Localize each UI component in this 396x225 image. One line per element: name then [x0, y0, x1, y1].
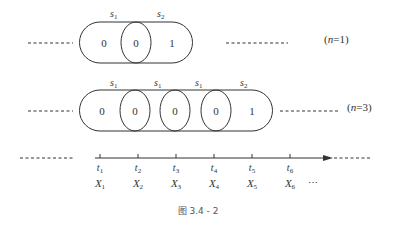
segment-label-s1: s1 [195, 77, 203, 90]
variable-label: X2 [132, 177, 144, 191]
sequence-diagram: s1 s2 0 0 1 (n=1) s1 s1 s1 s2 0 0 0 0 1 … [0, 0, 396, 225]
time-axis: t1X1t2X2t3X3t4X4t5X5t6X6⋯ [20, 154, 370, 191]
time-label: t1 [97, 162, 104, 175]
time-label: t5 [249, 162, 256, 175]
time-label: t4 [211, 162, 218, 175]
segment-label-s2: s2 [240, 77, 248, 90]
cell-value: 0 [172, 105, 178, 117]
row-note-n1: (n=1) [324, 33, 349, 46]
time-label: t6 [287, 162, 294, 175]
cell-value: 0 [133, 37, 139, 49]
row-n1: s1 s2 0 0 1 (n=1) [28, 8, 349, 63]
variable-label: X5 [246, 177, 258, 191]
variable-label: X6 [284, 177, 296, 191]
time-label: t2 [135, 162, 142, 175]
time-label: t3 [173, 162, 180, 175]
cell-value: 0 [132, 105, 138, 117]
variable-label: X1 [94, 177, 106, 191]
segment-label-s1: s1 [110, 77, 118, 90]
cell-value: 0 [101, 37, 107, 49]
figure-caption: 图 3.4 - 2 [178, 206, 219, 216]
row-note-n3: (n=3) [347, 101, 372, 114]
cell-value: 1 [169, 37, 175, 49]
ellipsis: ⋯ [308, 177, 318, 188]
segment-label-s1: s1 [110, 8, 118, 21]
cell-value: 0 [99, 105, 105, 117]
cell-value: 0 [213, 105, 219, 117]
variable-label: X3 [170, 177, 182, 191]
segment-label-s1: s1 [154, 77, 162, 90]
cell-value: 1 [249, 105, 255, 117]
arrow-head-icon [323, 155, 333, 161]
row-n3: s1 s1 s1 s2 0 0 0 0 1 (n=3) [28, 77, 372, 131]
segment-label-s2: s2 [157, 8, 165, 21]
variable-label: X4 [208, 177, 220, 191]
